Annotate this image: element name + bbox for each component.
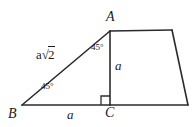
side-label-height: a bbox=[115, 59, 122, 72]
side-label-base: a bbox=[67, 108, 74, 121]
right-angle-marker-icon bbox=[101, 96, 110, 105]
geometry-figure: A B C a√2 a a 45° 45° bbox=[0, 0, 195, 127]
vertex-label-a: A bbox=[106, 10, 115, 24]
vertex-label-b: B bbox=[8, 107, 17, 121]
figure-canvas bbox=[0, 0, 195, 127]
segment-right-DE bbox=[172, 30, 188, 105]
side-label-hypotenuse: a√2 bbox=[36, 48, 55, 61]
angle-label-at-b: 45° bbox=[41, 82, 54, 91]
angle-label-at-a: 45° bbox=[91, 43, 104, 52]
vertex-label-c: C bbox=[105, 106, 114, 120]
segment-top-AD bbox=[110, 30, 172, 31]
hypotenuse-radicand: 2 bbox=[48, 46, 56, 62]
